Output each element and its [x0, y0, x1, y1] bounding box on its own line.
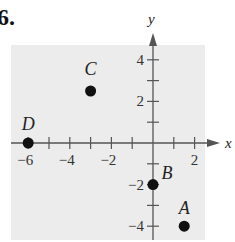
- x-axis-arrow-icon: [207, 139, 220, 147]
- y-axis-arrow-icon: [149, 33, 157, 46]
- point-label-a: A: [178, 198, 191, 218]
- point-a: [179, 221, 190, 232]
- x-tick-label: −2: [100, 152, 116, 168]
- x-tick-label: 2: [191, 152, 199, 168]
- y-tick-label: −4: [128, 218, 144, 234]
- y-tick-label: 4: [137, 52, 145, 68]
- point-b: [148, 179, 159, 190]
- x-axis-label: x: [224, 135, 232, 151]
- x-tick-label: −4: [59, 152, 75, 168]
- point-d: [23, 138, 34, 149]
- point-label-b: B: [162, 163, 173, 183]
- y-tick-label: −2: [128, 177, 144, 193]
- point-label-d: D: [21, 114, 35, 134]
- y-tick-label: 2: [137, 93, 145, 109]
- coordinate-plane: xy−6−4−22−4−224ABCD: [0, 0, 235, 242]
- y-axis-label: y: [146, 11, 155, 27]
- point-c: [85, 86, 96, 97]
- x-tick-label: −6: [17, 152, 33, 168]
- point-label-c: C: [85, 59, 98, 79]
